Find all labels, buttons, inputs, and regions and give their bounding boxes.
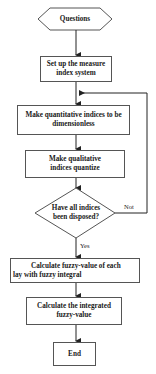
step-integrated: Calculate the integrated fuzzy-value: [26, 297, 122, 325]
decision-node: Have all indices been disposed?: [45, 200, 107, 226]
step-quantitative: Make quantitative indices to be dimensio…: [17, 105, 130, 135]
step-qualitative-label: Make qualitative indices quantize: [26, 155, 124, 173]
step-setup: Set up the measure index system: [40, 56, 112, 82]
no-label: Not: [124, 203, 134, 210]
yes-label: Yes: [80, 242, 89, 249]
decision-label: Have all indices been disposed?: [45, 204, 107, 222]
start-node: Questions: [38, 8, 112, 30]
step-fuzzy-each-label: Calculate fuzzy-value of each lay with f…: [11, 262, 139, 280]
start-label: Questions: [60, 15, 90, 24]
end-node: End: [53, 342, 96, 366]
step-quantitative-label: Make quantitative indices to be dimensio…: [18, 111, 129, 129]
step-qualitative: Make qualitative indices quantize: [25, 150, 125, 178]
step-integrated-label: Calculate the integrated fuzzy-value: [27, 302, 121, 320]
step-setup-label: Set up the measure index system: [41, 60, 111, 78]
end-label: End: [68, 350, 81, 359]
step-fuzzy-each: Calculate fuzzy-value of each lay with f…: [10, 258, 140, 283]
